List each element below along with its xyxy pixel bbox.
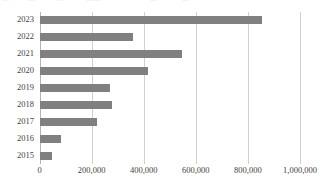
- value-tick-label: 200,000: [78, 166, 106, 175]
- bar[interactable]: [40, 152, 53, 160]
- category-tick-label: 2019: [17, 83, 34, 92]
- bar-row[interactable]: [40, 113, 301, 130]
- clipped-top-text-strip: —————·——·: [0, 0, 330, 7]
- clipped-text-fragment: ——: [86, 0, 101, 4]
- bar-row[interactable]: [40, 96, 301, 113]
- bar-row[interactable]: [40, 12, 301, 29]
- clipped-text-fragment: ·: [214, 0, 217, 4]
- clipped-text-fragment: —: [2, 0, 9, 4]
- category-tick-label: 2023: [17, 15, 34, 24]
- category-tick-label: 2015: [17, 151, 34, 160]
- bar-row[interactable]: [40, 63, 301, 80]
- bar[interactable]: [40, 135, 62, 143]
- clipped-text-fragment: —: [150, 0, 157, 4]
- value-tick-label: 800,000: [234, 166, 262, 175]
- category-tick-label: 2017: [17, 117, 34, 126]
- value-tick-label: 600,000: [182, 166, 210, 175]
- clipped-text-fragment: —: [182, 0, 189, 4]
- bar[interactable]: [40, 16, 262, 24]
- bar[interactable]: [40, 118, 98, 126]
- clipped-text-fragment: —: [56, 0, 63, 4]
- bar-row[interactable]: [40, 46, 301, 63]
- bar-row[interactable]: [40, 147, 301, 164]
- category-tick-label: 2022: [17, 32, 34, 41]
- bar-chart: —————·——· 202320222021202020192018201720…: [0, 0, 330, 187]
- bar-row[interactable]: [40, 130, 301, 147]
- bar[interactable]: [40, 84, 111, 92]
- category-axis: 202320222021202020192018201720162015: [0, 12, 34, 164]
- category-tick-label: 2018: [17, 100, 34, 109]
- clipped-text-fragment: ·: [122, 0, 125, 4]
- bar[interactable]: [40, 33, 134, 41]
- category-tick-label: 2021: [17, 49, 34, 58]
- bar[interactable]: [40, 50, 182, 58]
- category-tick-label: 2020: [17, 66, 34, 75]
- bar[interactable]: [40, 67, 148, 75]
- clipped-text-fragment: —: [28, 0, 35, 4]
- bar-row[interactable]: [40, 29, 301, 46]
- value-tick-label: 400,000: [130, 166, 158, 175]
- value-tick-label: 1,000,000: [283, 166, 317, 175]
- bar[interactable]: [40, 101, 112, 109]
- bar-row[interactable]: [40, 80, 301, 97]
- value-axis: 0200,000400,000600,000800,0001,000,000: [0, 166, 330, 180]
- category-tick-label: 2016: [17, 134, 34, 143]
- gridline: [300, 12, 301, 164]
- plot-area: [40, 12, 301, 164]
- value-tick-label: 0: [37, 166, 41, 175]
